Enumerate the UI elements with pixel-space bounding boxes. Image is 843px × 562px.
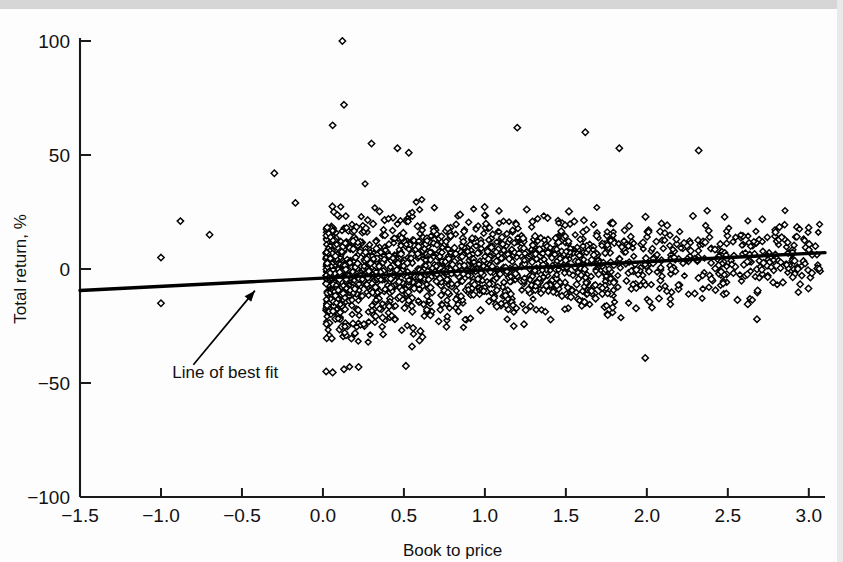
data-point (621, 227, 627, 233)
data-point (618, 315, 624, 321)
data-point (338, 204, 344, 210)
data-point (292, 200, 298, 206)
y-tick-label: 100 (38, 31, 70, 52)
data-point (370, 221, 377, 228)
data-point (504, 316, 510, 322)
data-point (730, 270, 736, 276)
data-point (436, 318, 442, 324)
data-point (797, 281, 803, 287)
data-point (615, 273, 621, 279)
data-point (329, 369, 336, 376)
x-axis-ticks (80, 488, 809, 497)
data-point (626, 300, 632, 306)
data-point (682, 273, 688, 279)
data-point (530, 296, 536, 302)
data-point (403, 363, 410, 370)
data-point (329, 122, 335, 128)
data-point (799, 273, 805, 279)
data-point (390, 228, 396, 234)
data-point (737, 272, 743, 278)
data-point (695, 147, 701, 153)
data-point (453, 221, 459, 227)
data-point (349, 312, 355, 318)
data-point (704, 208, 710, 214)
x-tick-label: −1.5 (61, 505, 99, 526)
data-point (700, 286, 706, 292)
data-point (417, 207, 423, 213)
data-point (206, 232, 212, 238)
x-tick-label: 1.5 (553, 505, 579, 526)
x-tick-label: 1.0 (472, 505, 498, 526)
y-axis-tick-labels: 100500−50−100 (27, 31, 70, 508)
data-point (406, 150, 412, 156)
data-point (695, 248, 701, 254)
data-point (547, 316, 553, 322)
data-point (409, 343, 415, 349)
y-tick-label: −50 (38, 373, 70, 394)
annotation-line-of-best-fit: Line of best fit (172, 291, 278, 383)
y-tick-label: 0 (59, 259, 70, 280)
data-point (724, 240, 730, 246)
data-point (581, 217, 587, 223)
data-point (708, 260, 714, 266)
data-point (648, 282, 654, 288)
data-point (591, 222, 597, 228)
x-tick-label: 3.0 (796, 505, 822, 526)
data-point (443, 324, 449, 330)
data-point (677, 229, 683, 235)
data-point (343, 213, 349, 219)
data-point (633, 305, 640, 312)
data-point (481, 231, 487, 237)
data-point (365, 217, 371, 223)
data-point (362, 181, 368, 187)
data-point (523, 206, 530, 213)
x-axis-title: Book to price (403, 541, 502, 560)
data-point (572, 232, 578, 238)
data-point (686, 291, 692, 297)
x-tick-label: 0.0 (310, 505, 336, 526)
data-point (511, 323, 517, 329)
data-point (399, 327, 405, 333)
data-point (667, 301, 673, 307)
scatter-points (158, 38, 824, 376)
data-point (777, 265, 783, 271)
data-point (341, 102, 347, 108)
data-point (582, 129, 588, 135)
data-point (816, 230, 821, 235)
data-point (745, 218, 751, 224)
data-point (660, 245, 666, 251)
data-point (376, 208, 382, 214)
data-point (496, 208, 502, 214)
x-tick-label: 2.0 (634, 505, 660, 526)
data-point (431, 205, 437, 211)
data-point (782, 208, 788, 214)
data-point (394, 145, 400, 151)
scatter-plot: −1.5−1.0−0.50.00.51.01.52.02.53.0 100500… (0, 0, 843, 562)
data-point (379, 324, 385, 330)
data-point (519, 287, 525, 293)
data-point (177, 218, 183, 224)
data-point (521, 321, 527, 327)
data-point (419, 197, 425, 203)
data-point (358, 214, 364, 220)
data-point (481, 204, 487, 210)
data-point (566, 208, 573, 215)
data-point (466, 219, 472, 225)
data-point (158, 300, 164, 306)
data-point (739, 278, 745, 284)
data-point (722, 214, 728, 220)
data-point (759, 216, 765, 222)
data-point (626, 223, 632, 229)
y-axis-ticks (80, 41, 91, 497)
data-point (356, 313, 362, 319)
data-point (158, 254, 164, 260)
data-point (368, 140, 374, 146)
data-point (690, 213, 696, 219)
x-axis-tick-labels: −1.5−1.0−0.50.00.51.01.52.02.53.0 (61, 505, 822, 526)
data-point (506, 219, 511, 224)
data-point (764, 234, 770, 240)
data-point (623, 278, 629, 284)
x-tick-label: 2.5 (715, 505, 741, 526)
y-tick-label: −100 (27, 487, 70, 508)
data-point (453, 288, 459, 294)
